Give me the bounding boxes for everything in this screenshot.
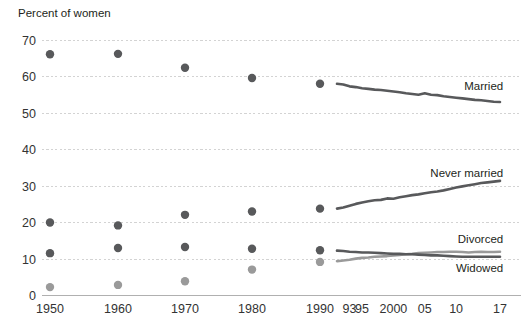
x-axis-ticks: 1950196019701980199093952000051017 [36, 302, 507, 316]
y-tick-label: 30 [22, 180, 36, 194]
y-tick-label: 60 [22, 70, 36, 84]
data-point-married [248, 74, 256, 82]
x-tick-label: 95 [355, 302, 369, 316]
x-tick-label: 1990 [306, 302, 334, 316]
data-point-married [114, 50, 122, 58]
chart-title: Percent of women [18, 7, 111, 19]
data-point-divorced [316, 258, 324, 266]
x-tick-label: 1980 [238, 302, 266, 316]
x-tick-label: 1950 [36, 302, 64, 316]
x-tick-label: 17 [493, 302, 507, 316]
trend-line-never-married [337, 181, 500, 209]
x-tick-label: 1960 [104, 302, 132, 316]
percent-of-women-chart: Percent of women 010203040506070 1950196… [0, 0, 528, 328]
data-point-married [46, 50, 54, 58]
series-labels-group: MarriedNever marriedDivorcedWidowed [430, 80, 503, 274]
y-tick-label: 10 [22, 253, 36, 267]
x-tick-label: 10 [449, 302, 463, 316]
data-point-widowed [248, 245, 256, 253]
data-point-widowed [181, 243, 189, 251]
series-dots-group [46, 50, 324, 292]
y-tick-label: 50 [22, 107, 36, 121]
series-label-divorced: Divorced [458, 233, 503, 245]
y-tick-label: 70 [22, 34, 36, 48]
y-tick-label: 0 [29, 289, 36, 303]
data-point-widowed [114, 244, 122, 252]
data-point-married [316, 80, 324, 88]
x-tick-label: 05 [418, 302, 432, 316]
data-point-never-married [114, 221, 122, 229]
series-label-widowed: Widowed [456, 262, 503, 274]
data-point-never-married [181, 211, 189, 219]
x-tick-label: 1970 [171, 302, 199, 316]
data-point-divorced [114, 281, 122, 289]
data-point-widowed [316, 246, 324, 254]
data-point-divorced [248, 265, 256, 273]
x-tick-label: 2000 [380, 302, 408, 316]
series-label-married: Married [464, 80, 503, 92]
data-point-divorced [46, 283, 54, 291]
data-point-never-married [248, 207, 256, 215]
data-point-married [181, 64, 189, 72]
y-axis-ticks: 010203040506070 [22, 34, 36, 304]
data-point-widowed [46, 249, 54, 257]
data-point-divorced [181, 277, 189, 285]
data-point-never-married [46, 218, 54, 226]
y-tick-label: 40 [22, 143, 36, 157]
y-tick-label: 20 [22, 216, 36, 230]
series-label-never-married: Never married [430, 167, 503, 179]
chart-container: Percent of women 010203040506070 1950196… [0, 0, 528, 328]
gridlines-group [42, 40, 521, 259]
data-point-never-married [316, 204, 324, 212]
